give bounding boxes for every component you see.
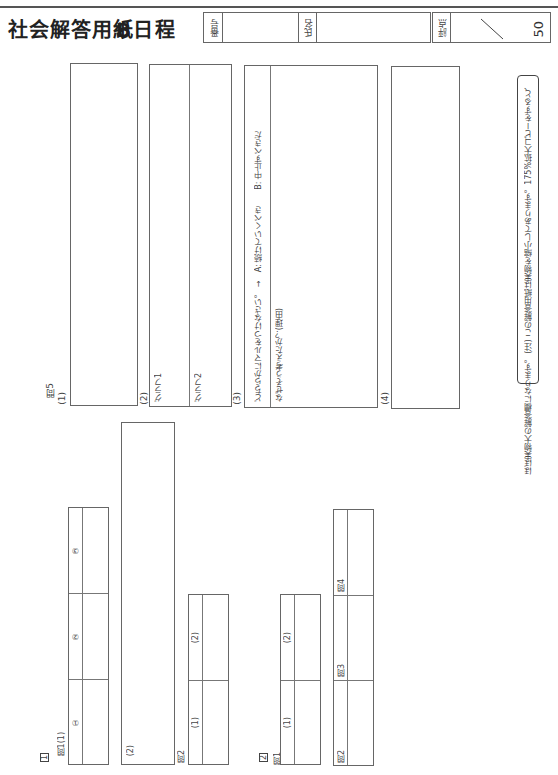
note-line1: (注) この解答用紙は実物を縮小してあります。175%拡大コピーをすると、 (523, 82, 534, 354)
name-label-cell: 氏名 (299, 13, 317, 42)
note-box: (注) この解答用紙は実物を縮小してあります。175%拡大コピーをすると、 ほぼ… (517, 75, 539, 384)
reason-prompt: なぜそう考えたか？(理由) (274, 308, 285, 402)
s1-q1-answer-3[interactable] (83, 508, 108, 593)
graph1-label: グラフ1 (153, 373, 164, 402)
choice-prompt: どちらかにマルをつけなさい。 → A: 続けていくべき B: 中止すべきだ (253, 131, 264, 402)
score-label-cell: 評点 (433, 13, 451, 42)
s1-q1-label: 問1(1) (56, 732, 67, 756)
section1-marker: 1 (40, 753, 49, 762)
s1-q1-2-label: (2) (126, 745, 135, 756)
q5-part1-label: (1) (57, 392, 67, 405)
q5-part1-answer-box[interactable] (70, 63, 138, 406)
s2-q234-table: 問2 問3 問4 (333, 509, 374, 766)
score-box: 評点 50 (432, 12, 551, 43)
choice-row[interactable]: どちらかにマルをつけなさい。 → A: 続けていくべき B: 中止すべきだ (245, 66, 270, 407)
q5-1-label-wrap: (1) (57, 390, 67, 409)
s2-q4-label-cell: 問4 (334, 510, 347, 595)
name-label: 氏名 (301, 19, 314, 37)
s1-q1-cell-1: ① (69, 679, 82, 765)
s1-q1-answer-2[interactable] (83, 594, 108, 679)
s1-q1-2-answer-box[interactable]: (2) (121, 422, 175, 765)
name-field[interactable] (317, 13, 430, 42)
s2-q2-label: 問2 (336, 750, 347, 763)
s2-q2-label-cell: 問2 (334, 680, 347, 766)
number-label-cell: 番号 (204, 13, 223, 42)
q5-3-label-wrap: (3) (232, 390, 242, 409)
q5-label-wrap: 問5 (43, 383, 56, 402)
s2-q1-cell-1: (1) (281, 680, 294, 765)
s2-q1-cell-2: (2) (281, 595, 294, 680)
s2-q3-answer[interactable] (348, 596, 373, 680)
s2-q1-table: (1) (2) (280, 594, 321, 765)
s2-q2-answer[interactable] (348, 681, 373, 765)
q5-2-label-wrap: (2) (139, 390, 149, 409)
number-field[interactable] (223, 13, 299, 42)
header-rule (0, 6, 558, 8)
s1-q1-answer-1[interactable] (83, 679, 108, 764)
s2-q4-label: 問4 (336, 579, 347, 592)
s1-q1-table: ① ② ③ (68, 507, 109, 765)
s1-q2-answer-1[interactable] (203, 681, 228, 764)
graph2-answer-area[interactable]: グラフ2 (190, 65, 231, 406)
s1-q1-cell-2: ② (69, 593, 82, 679)
s1-q2-label: 問2 (176, 750, 187, 763)
q5-part2-box: グラフ1 グラフ2 (149, 64, 232, 407)
s1-q2-cell-2: (2) (189, 595, 202, 680)
score-field[interactable]: 50 (451, 13, 550, 42)
s1-q2-cell-1: (1) (189, 680, 202, 765)
s1-q1-cell-3: ③ (69, 508, 82, 593)
s1-q2-table: (1) (2) (188, 594, 229, 765)
section2-marker: 2 (259, 753, 268, 762)
s2-q1-answer-2[interactable] (295, 595, 320, 680)
s2-q3-label: 問3 (336, 664, 347, 677)
reason-answer-area[interactable]: なぜそう考えたか？(理由) (271, 66, 377, 407)
s1-q1-label-wrap: 問1(1) (56, 732, 67, 760)
note-line2: ほぼ実物大の解答欄になります。 (523, 355, 534, 489)
s1-q2-label-wrap: 問2 (176, 748, 187, 767)
q5-part3-box: どちらかにマルをつけなさい。 → A: 続けていくべき B: 中止すべきだ なぜ… (244, 65, 378, 408)
q5-part4-answer-box[interactable] (391, 66, 460, 409)
q5-part2-label: (2) (139, 392, 149, 405)
s1-q2-answer-2[interactable] (203, 595, 228, 680)
q5-4-label-wrap: (4) (380, 390, 390, 409)
score-max: 50 (531, 21, 546, 38)
q5-part4-label: (4) (380, 392, 390, 405)
score-slash-icon (455, 16, 511, 40)
number-label: 番号 (207, 19, 220, 37)
student-info-box: 番号 氏名 (203, 12, 431, 43)
schedule-label: B日程 (116, 14, 177, 43)
graph1-answer-area[interactable]: グラフ1 (150, 65, 189, 406)
s2-q3-label-cell: 問3 (334, 595, 347, 680)
s2-q4-answer[interactable] (348, 510, 373, 595)
q5-part3-label: (3) (232, 392, 242, 405)
score-label: 評点 (435, 19, 448, 37)
q5-label: 問5 (43, 383, 56, 398)
s2-q1-answer-1[interactable] (295, 681, 320, 764)
graph2-label: グラフ2 (193, 373, 204, 402)
